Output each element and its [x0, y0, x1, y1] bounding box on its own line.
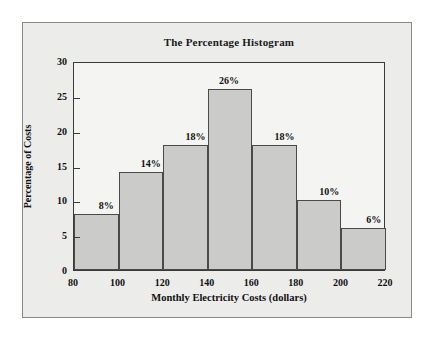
bar-value-label: 6% [358, 214, 390, 225]
y-axis-tick [74, 168, 80, 169]
x-axis-tick-label: 140 [191, 278, 223, 288]
y-axis-tick-label: 20 [45, 127, 67, 137]
y-axis-tick-label: 15 [45, 162, 67, 172]
histogram-bar [208, 89, 253, 270]
x-axis-tick-label: 220 [369, 278, 401, 288]
bar-value-label: 8% [90, 200, 122, 211]
x-axis-tick-label: 160 [235, 278, 267, 288]
x-axis-tick-label: 80 [57, 278, 89, 288]
bar-value-label: 14% [135, 158, 167, 169]
y-axis-tick-label: 10 [45, 196, 67, 206]
y-axis-tick [74, 98, 80, 99]
bar-value-label: 18% [179, 131, 211, 142]
bar-value-label: 10% [313, 186, 345, 197]
y-axis-tick-label: 0 [45, 266, 67, 276]
x-axis-tick-label: 180 [280, 278, 312, 288]
bar-value-label: 18% [269, 131, 301, 142]
y-axis-tick-label: 25 [45, 92, 67, 102]
x-axis-tick-label: 200 [324, 278, 356, 288]
x-axis-tick-label: 120 [146, 278, 178, 288]
x-axis-tick-label: 100 [102, 278, 134, 288]
histogram-bar [341, 228, 386, 270]
plot-area [73, 62, 385, 271]
x-axis-title: Monthly Electricity Costs (dollars) [73, 292, 385, 303]
histogram-bar [163, 145, 208, 270]
y-axis-tick-label: 5 [45, 231, 67, 241]
plot-inner [74, 63, 384, 270]
histogram-bar [297, 200, 342, 270]
y-axis-title: Percentage of Costs [22, 62, 33, 271]
y-axis-tick [74, 133, 80, 134]
y-axis-tick [74, 237, 80, 238]
histogram-bar [74, 214, 119, 270]
chart-title: The Percentage Histogram [73, 36, 385, 48]
histogram-bar [119, 172, 164, 270]
bar-value-label: 26% [213, 75, 245, 86]
histogram-bar [252, 145, 297, 270]
y-axis-tick [74, 202, 80, 203]
y-axis-tick-label: 30 [45, 57, 67, 67]
